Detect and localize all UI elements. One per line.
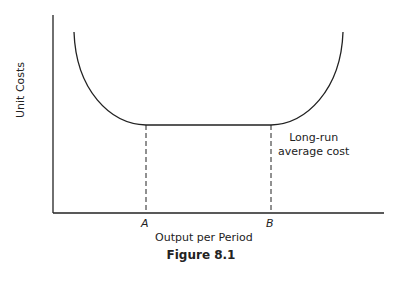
curve-label-line2: average cost <box>278 145 349 159</box>
tick-a: A <box>141 217 149 230</box>
lrac-curve <box>74 32 343 125</box>
curve-label: Long-run average cost <box>278 131 349 159</box>
tick-b: B <box>266 217 274 230</box>
y-axis-label: Unit Costs <box>14 62 27 118</box>
x-axis-label: Output per Period <box>155 231 253 244</box>
figure-caption: Figure 8.1 <box>0 248 402 262</box>
curve-label-line1: Long-run <box>278 131 349 145</box>
